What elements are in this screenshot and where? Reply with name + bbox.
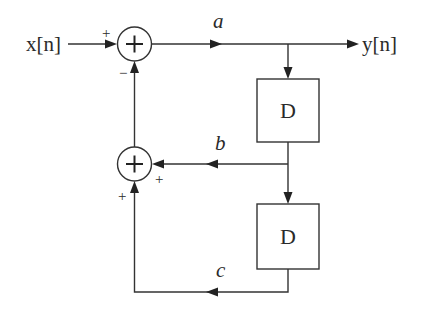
summer-feedback-bottom-arrowhead xyxy=(130,181,139,193)
delay2-input-arrowhead xyxy=(284,192,293,204)
delay1-input-arrowhead xyxy=(284,67,293,79)
signal-b-label: b xyxy=(215,131,226,155)
signal-a-label: a xyxy=(213,9,224,33)
output-label: y[n] xyxy=(362,32,397,56)
output-arrowhead xyxy=(347,40,359,49)
sign-feedback-bottom: + xyxy=(118,188,126,204)
sign-top-left: + xyxy=(102,25,110,41)
input-label: x[n] xyxy=(26,32,61,56)
summer-feedback-right-arrowhead xyxy=(152,160,164,169)
sign-feedback-right: + xyxy=(155,171,163,187)
sign-top-bottom: − xyxy=(119,65,127,81)
block-diagram: x[n] y[n] a b c D D + − + + xyxy=(0,0,427,325)
signal-c-arrowhead xyxy=(206,288,218,297)
delay-block-1-label: D xyxy=(280,98,296,123)
signal-a-arrowhead xyxy=(210,40,222,49)
delay-block-2-label: D xyxy=(280,224,296,249)
signal-c-label: c xyxy=(216,258,226,282)
summer-top-bottom-arrowhead xyxy=(130,61,139,73)
signal-b-arrowhead xyxy=(206,160,218,169)
